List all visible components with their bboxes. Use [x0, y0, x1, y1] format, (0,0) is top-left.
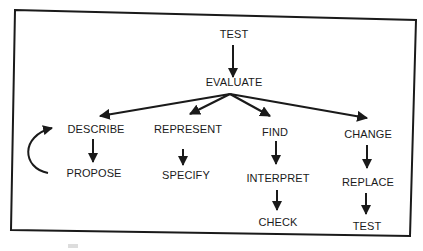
node-change: CHANGE [344, 128, 392, 140]
node-describe: DESCRIBE [67, 123, 124, 135]
node-replace: REPLACE [342, 176, 394, 188]
node-check: CHECK [258, 216, 297, 228]
node-test-top: TEST [220, 28, 249, 40]
arrow-evaluate-describe [100, 94, 230, 116]
node-interpret: INTERPRET [246, 172, 309, 184]
caption-fragment [68, 244, 78, 248]
arrow-propose-describe-loop [28, 128, 52, 173]
node-find: FIND [262, 126, 288, 138]
node-specify: SPECIFY [162, 169, 210, 181]
node-represent: REPRESENT [154, 123, 222, 135]
node-propose: PROPOSE [66, 167, 121, 179]
node-evaluate: EVALUATE [206, 76, 263, 88]
node-test-bottom: TEST [353, 220, 382, 232]
